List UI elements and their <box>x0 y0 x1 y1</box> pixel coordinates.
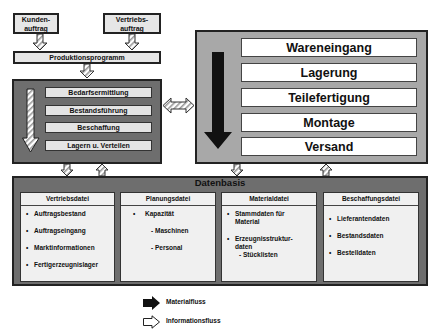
list-item: •Erzeugnisstruktur-daten <box>227 235 297 251</box>
sub-item: - Stücklisten <box>227 251 311 259</box>
legend-material-flow: Materialfluss <box>166 298 206 305</box>
step-bedarfsermittlung: Bedarfsermittlung <box>45 87 152 98</box>
step-montage: Montage <box>241 113 417 132</box>
step-label: Versand <box>305 140 354 154</box>
info-double-arrow-icon <box>162 97 195 114</box>
list-item: •Marktinformationen <box>26 244 109 252</box>
information-flow-legend-icon <box>143 315 161 329</box>
panel-title: Materialdatei <box>222 193 316 206</box>
step-label: Wareneingang <box>286 41 372 55</box>
list-item: •Fertigerzeugnislager <box>26 261 109 269</box>
panel-title: Vertriebsdatei <box>21 193 114 206</box>
step-label: Lagern u. Verteilen <box>67 142 130 149</box>
list-item: •Auftragseingang <box>26 227 109 235</box>
list-item: •Kapazität <box>133 210 210 218</box>
kundenauftrag-label-1: Kunden- <box>22 15 50 24</box>
panel-title: Planungsdatei <box>121 193 215 206</box>
step-teilefertigung: Teilefertigung <box>241 88 417 107</box>
list-item: •Auftragsbestand <box>26 210 109 218</box>
step-label: Bedarfsermittlung <box>68 89 128 96</box>
panel-vertriebsdatei: Vertriebsdatei •Auftragsbestand •Auftrag… <box>20 192 115 282</box>
step-lagerung: Lagerung <box>241 63 417 82</box>
step-beschaffung: Beschaffung <box>45 122 152 133</box>
panel-title: Beschaffungsdatei <box>324 193 418 206</box>
sub-item: - Maschinen <box>133 227 210 235</box>
step-bestandsfuehrung: Bestandsführung <box>45 105 152 116</box>
vertriebsauftrag-label-1: Vertriebs- <box>116 15 148 24</box>
step-label: Montage <box>303 116 354 130</box>
kundenauftrag-box: Kunden- auftrag <box>13 13 59 34</box>
info-arrow-down-icon <box>79 64 95 79</box>
material-arrow-down-icon <box>203 52 233 150</box>
produktionsprogramm-label: Produktionsprogramm <box>49 53 124 62</box>
list-item: •Bestelldaten <box>329 249 413 257</box>
step-label: Lagerung <box>301 66 358 80</box>
step-versand: Versand <box>241 137 417 156</box>
produktionsprogramm-bar: Produktionsprogramm <box>13 51 161 64</box>
list-item: •Bestandsdaten <box>329 232 413 240</box>
legend-information-flow: Informationsfluss <box>166 317 221 324</box>
datenbasis-title: Datenbasis <box>12 177 428 188</box>
step-wareneingang: Wareneingang <box>241 38 417 57</box>
step-label: Bestandsführung <box>70 107 128 114</box>
vertriebsauftrag-box: Vertriebs- auftrag <box>103 13 161 34</box>
panel-materialdatei: Materialdatei •Stammdaten für Material •… <box>221 192 317 282</box>
step-label: Beschaffung <box>77 124 119 131</box>
vertriebsauftrag-label-2: auftrag <box>120 24 144 33</box>
step-label: Teilefertigung <box>288 91 370 105</box>
step-lagern-verteilen: Lagern u. Verteilen <box>45 140 152 151</box>
sub-item: - Personal <box>133 244 210 252</box>
list-item: •Lieferantendaten <box>329 215 413 223</box>
hatched-arrow-down-icon <box>22 88 40 154</box>
panel-beschaffungsdatei: Beschaffungsdatei •Lieferantendaten •Bes… <box>323 192 419 282</box>
material-flow-legend-icon <box>143 296 161 310</box>
info-arrow-down-icon <box>32 34 48 51</box>
panel-planungsdatei: Planungsdatei •Kapazität - Maschinen - P… <box>120 192 216 282</box>
list-item: •Stammdaten für Material <box>227 210 297 226</box>
info-arrow-down-icon <box>124 34 140 51</box>
kundenauftrag-label-2: auftrag <box>24 24 48 33</box>
